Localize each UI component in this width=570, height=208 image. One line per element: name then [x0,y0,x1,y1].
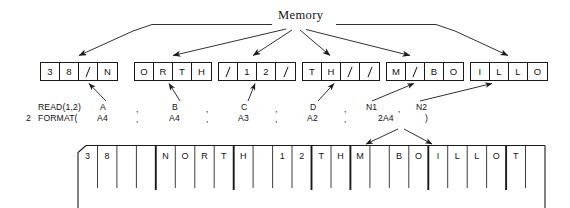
format-statement-number: 2 [26,113,31,124]
format-separator-0: , [136,114,139,125]
memory-cell [276,63,295,80]
memory-cell: 3 [41,63,60,80]
memory-cell: 2 [257,63,276,80]
card-column-char: 2 [292,152,311,161]
memory-cell: L [509,63,528,80]
memory-cell [406,63,425,80]
card-column-char: 1 [273,152,292,161]
read-statement: READ(1,2) [38,102,81,113]
read-separator-0: , [136,104,139,115]
fortran-memory-diagram: Memory 38NORTH12THMBOILLO READ(1,2)2FORM… [0,0,570,208]
read-variable-b: B [172,102,178,113]
format-spec-1: A4 [169,113,180,124]
read-separator-4: , [398,104,401,115]
card-column-char: H [234,152,253,161]
format-statement: FORMAT( [38,113,78,124]
memory-cell: O [444,63,463,80]
format-separator-3: , [344,114,347,125]
format-spec-4: 2A4 [378,113,394,124]
format-close-paren: ) [425,113,428,124]
card-column-char: L [467,152,486,161]
format-spec-0: A4 [97,113,108,124]
memory-cell: I [471,63,490,80]
card-column-char: R [195,152,214,161]
card-column-char: N [156,152,175,161]
card-column-char: I [428,152,447,161]
card-column-char: T [506,152,525,161]
memory-cell [360,63,379,80]
memory-group-n1: MBO [386,62,464,81]
memory-group-a: 38N [40,62,118,81]
card-column-char: O [175,152,194,161]
memory-cell: T [303,63,322,80]
memory-label: Memory [278,8,323,23]
memory-cell [341,63,360,80]
read-variable-c: C [241,102,247,113]
memory-cell: R [154,63,173,80]
memory-cell: 1 [238,63,257,80]
memory-cell: O [135,63,154,80]
memory-group-c: 12 [218,62,296,81]
read-variable-n1: N1 [366,102,377,113]
read-separator-3: , [344,104,347,115]
card-column-char: L [448,152,467,161]
card-column-char: 3 [78,152,97,161]
card-column-char: O [487,152,506,161]
format-separator-2: , [275,114,278,125]
card-column-char: 8 [97,152,116,161]
memory-cell: H [192,63,211,80]
read-separator-2: , [275,104,278,115]
card-column-char: B [389,152,408,161]
memory-cell: L [490,63,509,80]
memory-group-n2: ILLO [470,62,548,81]
read-variable-n2: N2 [416,102,427,113]
read-separator-1: , [206,104,209,115]
format-separator-1: , [206,114,209,125]
card-column-char: T [312,152,331,161]
memory-cell: N [98,63,117,80]
memory-cell [79,63,98,80]
format-spec-2: A3 [238,113,249,124]
format-spec-3: A2 [307,113,318,124]
card-column-char: M [350,152,369,161]
read-variable-d: D [310,102,316,113]
memory-group-d: TH [302,62,380,81]
diagram-vector-layer [0,0,570,208]
memory-group-b: ORTH [134,62,212,81]
memory-cell: T [173,63,192,80]
card-column-char: T [214,152,233,161]
card-column-char: H [331,152,350,161]
memory-cell: 8 [60,63,79,80]
read-variable-a: A [100,102,106,113]
memory-cell: H [322,63,341,80]
memory-cell: O [528,63,547,80]
memory-cell [219,63,238,80]
memory-cell: M [387,63,406,80]
memory-cell: B [425,63,444,80]
card-column-char: O [409,152,428,161]
